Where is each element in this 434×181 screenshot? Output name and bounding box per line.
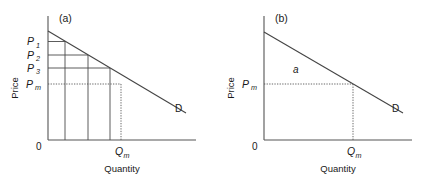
- panel-a-price-tick-pm: P m: [26, 78, 41, 93]
- panel-b-origin-label: 0: [252, 141, 258, 152]
- panel-a-price-tick-p3: P 3: [27, 62, 40, 77]
- panel-a-label: (a): [59, 12, 72, 24]
- panel-b-y-axis-title: Price: [225, 77, 236, 99]
- panel-a-quantity-tick-qm-sub: m: [124, 151, 130, 160]
- panel-b-demand-label: D: [392, 103, 399, 114]
- panel-a-price-tick-p1-base: P: [27, 35, 34, 47]
- panel-b-area-label: a: [293, 64, 299, 75]
- panel-a-quantity-tick-qm-base: Q: [115, 145, 123, 157]
- panel-a: (a) 0 Price Quantity P 1 P 2 P 3 P m: [9, 12, 196, 174]
- panel-b-quantity-tick-qm-base: Q: [347, 145, 355, 157]
- panel-a-demand-label: D: [175, 103, 182, 114]
- panel-b-price-tick-pm-sub: m: [251, 83, 257, 92]
- panel-a-price-tick-p2-base: P: [27, 49, 34, 61]
- panel-a-price-tick-p1-sub: 1: [36, 41, 40, 50]
- panel-b-x-axis-title: Quantity: [320, 163, 356, 174]
- panel-b-quantity-tick-qm: Q m: [347, 145, 362, 160]
- panel-a-price-tick-pm-sub: m: [35, 83, 41, 92]
- panel-b: (b) 0 Price Quantity P m Q m a D: [225, 12, 412, 174]
- panel-a-price-tick-p2-sub: 2: [35, 54, 40, 63]
- panel-b-demand-curve: [264, 32, 403, 113]
- panel-a-price-tick-p3-base: P: [27, 62, 34, 74]
- economics-figure: (a) 0 Price Quantity P 1 P 2 P 3 P m: [0, 0, 434, 181]
- panel-b-quantity-tick-qm-sub: m: [356, 151, 362, 160]
- panel-a-quantity-tick-qm: Q m: [115, 145, 130, 160]
- panel-b-label: (b): [275, 12, 288, 24]
- panel-a-price-tick-p1: P 1: [27, 35, 40, 50]
- panel-a-origin-label: 0: [36, 141, 42, 152]
- panel-a-demand-curve: [48, 31, 186, 113]
- panel-a-price-tick-p3-sub: 3: [36, 67, 40, 76]
- panel-b-price-tick-pm: P m: [242, 78, 257, 93]
- figure-canvas: (a) 0 Price Quantity P 1 P 2 P 3 P m: [0, 0, 434, 181]
- panel-b-price-tick-pm-base: P: [242, 78, 249, 90]
- panel-a-price-tick-pm-base: P: [26, 78, 33, 90]
- panel-a-x-axis-title: Quantity: [104, 163, 140, 174]
- panel-a-y-axis-title: Price: [9, 77, 20, 99]
